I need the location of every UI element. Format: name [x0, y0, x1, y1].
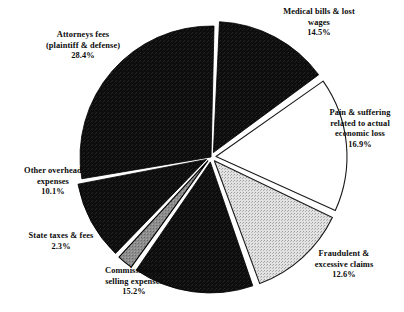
slice-label-fraudulent-line1: Fraudulent & — [287, 249, 401, 260]
slice-label-medical-line1: Medical bills & lost — [243, 7, 395, 18]
slice-label-medical-line2: wages — [243, 18, 395, 29]
slice-label-pain-suffering: Pain & suffering related to actual econo… — [316, 108, 404, 150]
slice-value-fraudulent: 12.6% — [287, 270, 401, 281]
slice-label-pain-line3: economic loss — [316, 129, 404, 140]
slice-value-pain: 16.9% — [316, 140, 404, 151]
slice-label-overhead-line2: expenses — [1, 177, 105, 188]
slice-label-pain-line2: related to actual — [316, 119, 404, 130]
slice-value-medical: 14.5% — [243, 28, 395, 39]
slice-label-medical: Medical bills & lost wages 14.5% — [243, 7, 395, 39]
slice-label-state-taxes: State taxes & fees 2.3% — [2, 231, 120, 252]
pie-chart: Medical bills & lost wages 14.5% Pain & … — [0, 0, 404, 312]
slice-label-overhead-line1: Other overhead — [1, 166, 105, 177]
slice-label-attorneys-fees: Attorneys fees (plaintiff & defense) 28.… — [8, 30, 158, 62]
slice-label-attorneys-line2: (plaintiff & defense) — [8, 41, 158, 52]
slice-label-fraudulent-line2: excessive claims — [287, 260, 401, 271]
slice-label-fraudulent: Fraudulent & excessive claims 12.6% — [287, 249, 401, 281]
slice-label-attorneys-line1: Attorneys fees — [8, 30, 158, 41]
slice-label-commissions-line1: Commissions & — [67, 266, 201, 277]
slice-label-other-overhead: Other overhead expenses 10.1% — [1, 166, 105, 198]
slice-value-commissions: 15.2% — [67, 287, 201, 298]
slice-label-pain-line1: Pain & suffering — [316, 108, 404, 119]
slice-value-attorneys: 28.4% — [8, 51, 158, 62]
slice-value-overhead: 10.1% — [1, 187, 105, 198]
slice-value-state-taxes: 2.3% — [2, 242, 120, 253]
slice-label-state-taxes-line1: State taxes & fees — [2, 231, 120, 242]
slice-label-commissions: Commissions & selling expenses 15.2% — [67, 266, 201, 298]
slice-label-commissions-line2: selling expenses — [67, 277, 201, 288]
